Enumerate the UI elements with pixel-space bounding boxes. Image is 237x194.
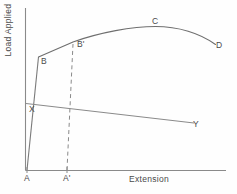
y-axis-title: Load Applied: [4, 4, 13, 57]
point-label-b: B: [41, 57, 47, 66]
point-label-a: A: [24, 174, 30, 183]
point-label-c: C: [152, 17, 158, 26]
point-label-b-prime: B': [77, 40, 84, 49]
point-label-y: Y: [193, 120, 199, 129]
dashed-segment-a-prime-b-prime: [67, 44, 73, 170]
x-axis-title: Extension: [129, 175, 169, 184]
plastic-curve-bcd: [39, 27, 216, 58]
point-label-d: D: [216, 41, 222, 50]
point-label-x: X: [29, 105, 35, 114]
chart-canvas: [0, 0, 237, 194]
load-extension-diagram: B B' C D X Y A A' Extension Load Applied: [0, 0, 237, 194]
point-label-a-prime: A': [63, 174, 70, 183]
unload-segment-xy: [26, 104, 194, 124]
